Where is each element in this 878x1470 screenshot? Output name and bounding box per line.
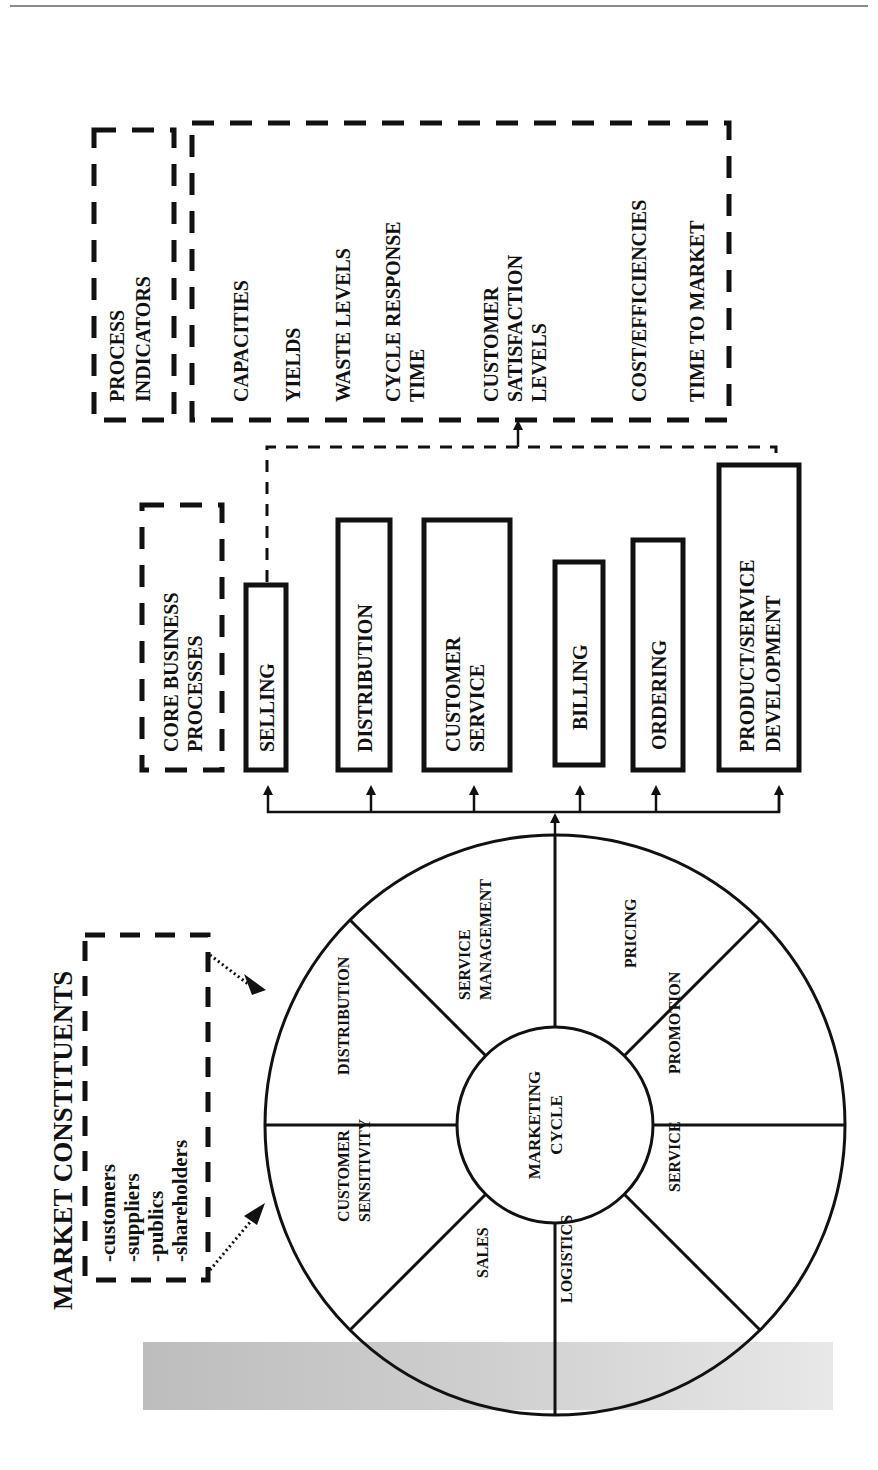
diagram-canvas: MARKET CONSTITUENTS -customers -supplier… [0,0,878,1470]
indicator-customer-satisfaction-line1: CUSTOMER [480,286,502,402]
indicators-title-line1: PROCESS [106,310,128,402]
process-product-service-label-2: DEVELOPMENT [762,595,784,752]
indicators-title-line2: INDICATORS [132,276,154,402]
indicator-customer-satisfaction-line2: SATISFACTION [504,254,526,402]
segment-sales: SALES [474,1227,491,1278]
core-processes-title-box [142,505,222,770]
process-billing[interactable]: BILLING [555,562,603,765]
segment-logistics: LOGISTICS [558,1215,575,1303]
segment-service-management-2: MANAGEMENT [477,879,494,1000]
process-customer-service-label-1: CUSTOMER [442,636,464,752]
segment-customer-sensitivity-2: SENSITIVITY [356,1118,373,1222]
market-constituents: MARKET CONSTITUENTS -customers -supplier… [48,935,266,1310]
indicator-cycle-response-line1: CYCLE RESPONSE [382,221,404,402]
process-billing-label: BILLING [569,644,591,730]
indicator-cost-efficiencies: COST/EFFICIENCIES [628,200,650,402]
core-business-processes: CORE BUSINESS PROCESSES SELLING DISTRIBU… [142,465,799,770]
segment-promotion: PROMOTION [666,971,683,1074]
process-customer-service[interactable]: CUSTOMER SERVICE [424,520,510,770]
core-processes-title-line1: CORE BUSINESS [160,592,182,752]
process-product-service-label-1: PRODUCT/SERVICE [736,559,758,752]
core-processes-title-line2: PROCESSES [184,635,206,752]
segment-pricing: PRICING [622,898,639,968]
process-product-service-development[interactable]: PRODUCT/SERVICE DEVELOPMENT [719,465,799,770]
market-constituents-title: MARKET CONSTITUENTS [48,971,78,1310]
segment-service-management-1: SERVICE [456,929,473,1000]
segment-service: SERVICE [666,1121,683,1192]
process-selling[interactable]: SELLING [246,585,286,770]
process-ordering-label: ORDERING [648,640,670,750]
constituent-suppliers: -suppliers [120,1173,144,1262]
process-connector [268,790,779,835]
marketing-wheel: MARKETING CYCLE CUSTOMER SENSITIVITY DIS… [265,835,845,1415]
process-distribution[interactable]: DISTRIBUTION [338,520,390,770]
process-ordering[interactable]: ORDERING [633,540,683,770]
process-customer-service-label-2: SERVICE [466,664,488,752]
wheel-center-line1: MARKETING [525,1071,544,1180]
indicator-yields: YIELDS [282,328,304,402]
constituent-customers: -customers [96,1164,120,1262]
process-indicators: PROCESS INDICATORS CAPACITIES YIELDS WAS… [94,123,729,420]
indicator-time-to-market: TIME TO MARKET [686,220,708,402]
dotted-arrow-lower [210,1215,256,1270]
wheel-center-line2: CYCLE [547,1095,566,1155]
segment-distribution: DISTRIBUTION [335,956,352,1075]
indicator-cycle-response-line2: TIME [406,349,428,402]
constituent-publics: -publics [144,1191,168,1262]
indicator-customer-satisfaction-line3: LEVELS [528,323,550,402]
constituent-shareholders: -shareholders [168,1140,192,1262]
process-selling-label: SELLING [256,663,278,752]
process-distribution-label: DISTRIBUTION [354,604,376,752]
indicator-capacities: CAPACITIES [230,280,252,402]
indicator-waste-levels: WASTE LEVELS [332,248,354,402]
segment-customer-sensitivity-1: CUSTOMER [335,1129,352,1222]
